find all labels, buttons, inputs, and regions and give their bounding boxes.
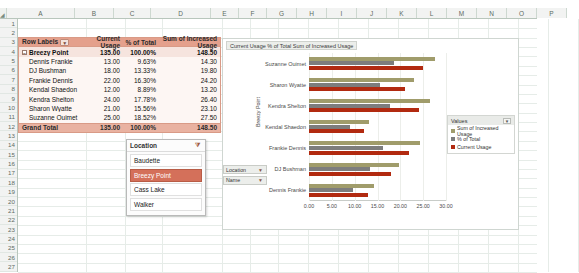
column-header-D[interactable]: D <box>151 8 211 18</box>
slicer-item-baudette[interactable]: Baudette <box>130 154 202 167</box>
row-header-22[interactable]: 22 <box>0 216 17 225</box>
select-all-icon[interactable]: ◢ <box>0 8 7 18</box>
pivot-chart[interactable]: Current Usage % of Total Sum of Increase… <box>222 38 519 230</box>
row-header-9[interactable]: 9 <box>0 94 17 103</box>
chart-bar-current-usage <box>309 193 368 197</box>
pivot-data-row[interactable]: DJ Bushman18.0013.33%19.80 <box>19 66 220 75</box>
column-header-C[interactable]: C <box>114 8 151 18</box>
pivot-table[interactable]: Row Labels▼ Current Usage % of Total Sum… <box>18 37 221 133</box>
pivot-row-current-usage: 21.00 <box>89 105 123 112</box>
chart-bar--of-total <box>309 167 370 171</box>
chart-bar--of-total <box>309 83 380 87</box>
row-header-6[interactable]: 6 <box>0 66 17 75</box>
row-header-16[interactable]: 16 <box>0 159 17 168</box>
chart-filter-location[interactable]: Location▼ <box>223 165 267 174</box>
row-header-25[interactable]: 25 <box>0 244 17 253</box>
pivot-row-current-usage: 12.00 <box>89 86 123 93</box>
pivot-data-row[interactable]: Kendal Shaedon12.008.89%13.20 <box>19 85 220 94</box>
chevron-down-icon[interactable]: ▼ <box>503 118 511 124</box>
category-label: Sharon Wyatte <box>270 82 306 88</box>
chart-legend[interactable]: Values ▼ Sum of Increased Usage% of Tota… <box>447 115 515 154</box>
pivot-row-current-usage: 22.00 <box>89 77 123 84</box>
pivot-subtotal-row[interactable]: −Breezy Point 135.00 100.00% 148.50 <box>19 47 220 56</box>
slicer-item-cass-lake[interactable]: Cass Lake <box>130 183 202 196</box>
pivot-row-increased-usage: 27.50 <box>159 114 220 121</box>
column-header-K[interactable]: K <box>387 8 417 18</box>
location-slicer[interactable]: Location ⧩ BaudetteBreezy PointCass Lake… <box>126 139 206 216</box>
chart-bar-sum-of-increased-usage <box>309 184 374 188</box>
x-tick-label: 20.00 <box>394 203 407 209</box>
chart-bar-sum-of-increased-usage <box>309 78 414 82</box>
pivot-row-pct: 13.33% <box>123 67 159 74</box>
row-header-4[interactable]: 4 <box>0 47 17 56</box>
chart-filter-name[interactable]: Name▼ <box>223 176 267 185</box>
grid-line-v <box>548 19 549 272</box>
row-header-23[interactable]: 23 <box>0 225 17 234</box>
row-header-17[interactable]: 17 <box>0 169 17 178</box>
row-header-10[interactable]: 10 <box>0 103 17 112</box>
column-header-G[interactable]: G <box>267 8 297 18</box>
column-header-E[interactable]: E <box>211 8 239 18</box>
column-header-A[interactable]: A <box>7 8 75 18</box>
pivot-data-row[interactable]: Suzanne Ouimet25.0018.52%27.50 <box>19 113 220 122</box>
row-header-12[interactable]: 12 <box>0 122 17 131</box>
column-header-I[interactable]: I <box>327 8 357 18</box>
row-header-11[interactable]: 11 <box>0 113 17 122</box>
column-header-row: ◢ ABCDEFGHIJKLMNOP <box>0 8 537 19</box>
column-header-N[interactable]: N <box>477 8 507 18</box>
chart-filter-buttons[interactable]: Location▼Name▼ <box>223 165 267 186</box>
pivot-data-row[interactable]: Dennis Frankie13.009.63%14.30 <box>19 57 220 66</box>
column-header-M[interactable]: M <box>447 8 477 18</box>
pivot-row-label: Frankie Dennis <box>19 77 89 84</box>
pivot-header-row: Row Labels▼ Current Usage % of Total Sum… <box>19 38 220 47</box>
legend-header: Values ▼ <box>448 116 514 125</box>
x-tick-label: 0.00 <box>304 203 314 209</box>
row-header-3[interactable]: 3 <box>0 38 17 47</box>
column-header-H[interactable]: H <box>297 8 327 18</box>
row-header-20[interactable]: 20 <box>0 197 17 206</box>
legend-title: Values <box>451 118 467 124</box>
pivot-row-pct: 9.63% <box>123 58 159 65</box>
pivot-row-pct: 17.78% <box>123 96 159 103</box>
column-header-P[interactable]: P <box>537 8 567 18</box>
slicer-item-breezy-point[interactable]: Breezy Point <box>130 169 202 182</box>
filter-icon[interactable]: ▼ <box>60 39 69 46</box>
chart-field-buttons[interactable]: Current Usage % of Total Sum of Increase… <box>226 41 357 50</box>
row-header-7[interactable]: 7 <box>0 75 17 84</box>
pivot-data-row[interactable]: Sharon Wyatte21.0015.56%23.10 <box>19 104 220 113</box>
column-header-L[interactable]: L <box>417 8 447 18</box>
chart-bar-sum-of-increased-usage <box>309 163 399 167</box>
row-header-13[interactable]: 13 <box>0 131 17 140</box>
row-header-15[interactable]: 15 <box>0 150 17 159</box>
chart-bar--of-total <box>309 188 353 192</box>
pivot-data-row[interactable]: Frankie Dennis22.0016.30%24.20 <box>19 76 220 85</box>
legend-entry-label: % of Total <box>457 136 480 142</box>
x-tick-label: 10.00 <box>348 203 361 209</box>
column-header-B[interactable]: B <box>75 8 114 18</box>
filter-funnel-icon[interactable]: ▼ <box>257 167 264 173</box>
row-header-2[interactable]: 2 <box>0 28 17 37</box>
row-header-19[interactable]: 19 <box>0 187 17 196</box>
row-header-24[interactable]: 24 <box>0 234 17 243</box>
column-header-J[interactable]: J <box>357 8 387 18</box>
row-header-5[interactable]: 5 <box>0 56 17 65</box>
pivot-data-row[interactable]: Kendra Shelton24.0017.78%26.40 <box>19 94 220 103</box>
row-header-26[interactable]: 26 <box>0 253 17 262</box>
row-header-8[interactable]: 8 <box>0 85 17 94</box>
dropdown-icon[interactable]: ▼ <box>257 177 264 183</box>
column-header-F[interactable]: F <box>239 8 267 18</box>
row-header-21[interactable]: 21 <box>0 206 17 215</box>
row-header-1[interactable]: 1 <box>0 19 17 28</box>
slicer-item-walker[interactable]: Walker <box>130 198 202 211</box>
chart-bar-current-usage <box>309 66 423 70</box>
row-header-27[interactable]: 27 <box>0 262 17 271</box>
row-header-14[interactable]: 14 <box>0 141 17 150</box>
clear-filter-icon[interactable]: ⧩ <box>193 142 202 150</box>
row-header-18[interactable]: 18 <box>0 178 17 187</box>
pivot-row-increased-usage: 14.30 <box>159 58 220 65</box>
column-header-O[interactable]: O <box>507 8 537 18</box>
collapse-icon[interactable]: − <box>22 50 27 55</box>
pivot-grand-total-increased-usage: 148.50 <box>159 124 220 131</box>
pivot-row-label: DJ Bushman <box>19 67 89 74</box>
